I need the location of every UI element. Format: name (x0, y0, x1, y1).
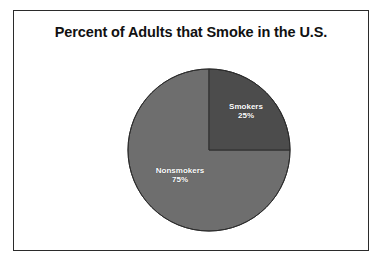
chart-frame: Percent of Adults that Smoke in the U.S.… (13, 10, 369, 251)
pie-label-nonsmokers-name: Nonsmokers (134, 166, 226, 175)
pie-chart (127, 68, 291, 232)
pie-chart-svg (127, 68, 291, 232)
pie-label-smokers-value: 25% (207, 111, 285, 120)
chart-title: Percent of Adults that Smoke in the U.S. (14, 24, 368, 40)
figure-root: Percent of Adults that Smoke in the U.S.… (0, 0, 392, 266)
pie-label-nonsmokers: Nonsmokers 75% (134, 166, 226, 185)
pie-label-smokers: Smokers 25% (207, 102, 285, 121)
pie-label-nonsmokers-value: 75% (134, 175, 226, 184)
pie-label-smokers-name: Smokers (207, 102, 285, 111)
